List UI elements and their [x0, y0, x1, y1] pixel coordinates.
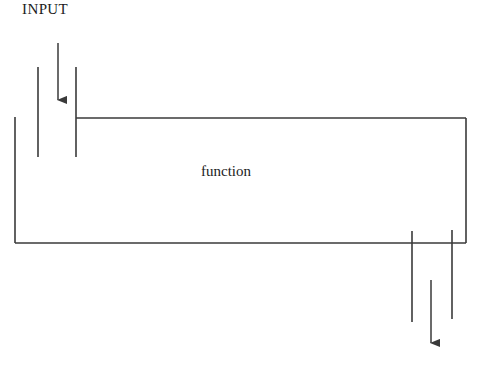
function-label: function — [201, 163, 251, 180]
input-label: INPUT — [22, 1, 68, 18]
diagram-canvas: INPUT function — [0, 0, 481, 378]
diagram-vector-layer — [0, 0, 481, 378]
